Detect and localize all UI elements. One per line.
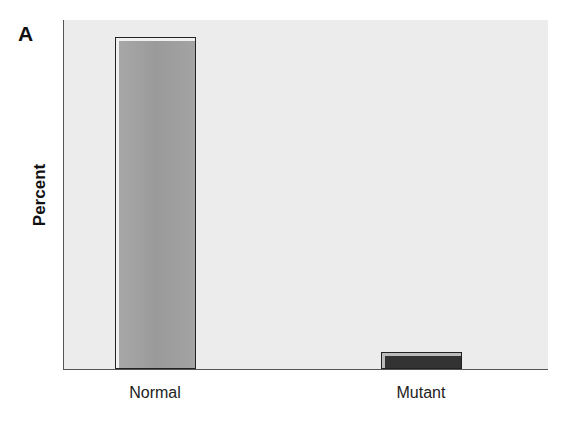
bar-mutant <box>381 352 462 369</box>
y-axis-label: Percent <box>30 164 50 226</box>
panel-letter: A <box>18 22 33 46</box>
x-tick-label-normal: Normal <box>129 384 181 402</box>
x-tick-label-mutant: Mutant <box>397 384 446 402</box>
bar-normal <box>115 37 196 369</box>
